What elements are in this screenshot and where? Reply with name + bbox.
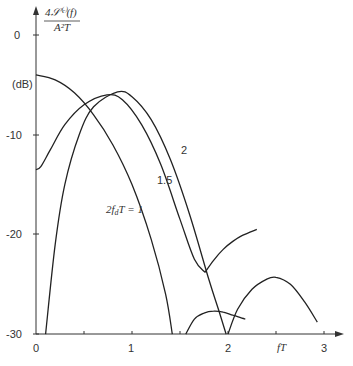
y-tick-label: -30 bbox=[6, 328, 22, 340]
x-axis-arrow-icon bbox=[335, 331, 344, 337]
curve-label-1: 2fdT = 1 bbox=[106, 203, 143, 217]
y-tick-label: -20 bbox=[6, 228, 22, 240]
x-tick-label: 0 bbox=[33, 342, 39, 354]
y-tick-label: 0 bbox=[14, 29, 20, 41]
curve-label-2: 2 bbox=[181, 144, 187, 156]
x-tick-label: 2 bbox=[225, 342, 231, 354]
curve-2 bbox=[228, 277, 317, 334]
y-unit-label: (dB) bbox=[12, 78, 33, 90]
chart: 0 -10 -20 -30 0 1 2 3 fT 4𝒮⁽ᶜ⁾(f) A²T (d… bbox=[0, 0, 353, 366]
curve-1-5 bbox=[205, 229, 257, 272]
y-label-denominator: A²T bbox=[53, 21, 71, 33]
x-axis-label: fT bbox=[277, 341, 287, 353]
curve-2f-dt-1 bbox=[36, 75, 172, 334]
x-tick-label: 3 bbox=[321, 342, 327, 354]
x-tick-label: 1 bbox=[128, 342, 134, 354]
y-label-numerator: 4𝒮⁽ᶜ⁾(f) bbox=[45, 6, 77, 19]
curve-label-1-5: 1.5 bbox=[157, 174, 172, 186]
curve-2f-dt-1 bbox=[186, 311, 246, 334]
y-tick-label: -10 bbox=[6, 129, 22, 141]
curves bbox=[36, 75, 317, 334]
y-axis-arrow-icon bbox=[33, 6, 39, 15]
